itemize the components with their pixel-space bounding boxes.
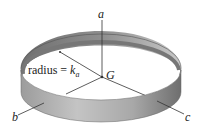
axis-a-label: a [98,8,104,20]
center-g-label: G [106,69,115,81]
radius-label: radius = ka [27,64,80,79]
center-point [101,76,104,79]
axis-b-label: b [12,111,18,123]
axis-c-label: c [185,111,190,123]
